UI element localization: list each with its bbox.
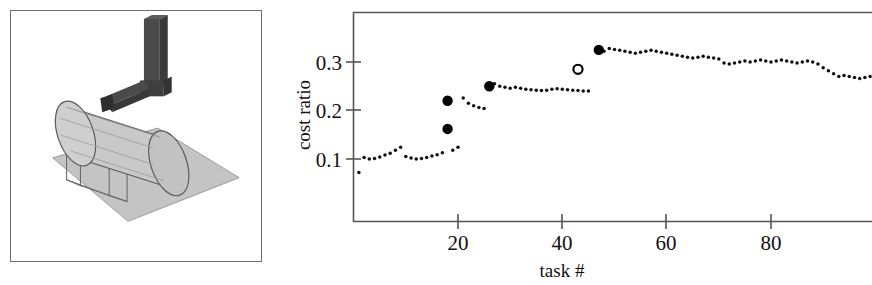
data-point: [467, 101, 471, 105]
data-point: [837, 75, 841, 79]
data-point: [529, 88, 533, 92]
data-point: [701, 54, 705, 58]
data-point: [587, 89, 591, 93]
data-point: [451, 149, 455, 153]
data-point: [748, 60, 752, 64]
data-point: [618, 49, 622, 53]
data-point: [665, 52, 669, 56]
y-tick-label-0: 0.3: [316, 51, 342, 75]
data-series-filled-markers: [442, 45, 604, 134]
data-point: [634, 52, 638, 56]
data-point: [623, 50, 627, 54]
plot-panel: 0.3 0.2 0.1 20 40 60 80 cost ratio task …: [290, 0, 872, 285]
data-point: [691, 56, 695, 60]
cost-ratio-scatter-plot: 0.3 0.2 0.1 20 40 60 80 cost ratio task …: [290, 0, 872, 285]
data-point: [561, 87, 565, 91]
data-point: [368, 157, 372, 161]
data-point: [686, 55, 690, 59]
data-point: [409, 156, 413, 160]
x-axis-title: task #: [540, 260, 585, 281]
data-point: [806, 59, 810, 63]
data-point: [571, 88, 575, 92]
data-point: [707, 55, 711, 59]
data-point: [853, 76, 857, 80]
data-point: [717, 57, 721, 61]
x-tick-label-1: 40: [552, 231, 573, 255]
y-axis-title: cost ratio: [293, 80, 314, 150]
data-point: [357, 171, 361, 175]
data-point: [399, 146, 403, 150]
highlighted-data-point: [442, 96, 452, 106]
data-point: [362, 156, 366, 160]
data-point: [394, 149, 398, 153]
data-point: [613, 48, 617, 52]
data-point: [827, 69, 831, 73]
data-point: [435, 153, 439, 157]
data-point: [769, 60, 773, 64]
data-point: [388, 151, 392, 155]
data-point: [456, 146, 460, 150]
data-point: [712, 56, 716, 60]
data-point: [441, 151, 445, 155]
data-point: [863, 76, 867, 80]
data-series-small-dots: [357, 47, 872, 175]
data-point: [649, 49, 653, 53]
data-point: [378, 155, 382, 159]
data-point: [415, 157, 419, 161]
data-point: [514, 85, 518, 89]
data-point: [503, 85, 507, 89]
x-tick-label-0: 20: [448, 231, 469, 255]
data-point: [785, 59, 789, 63]
data-point: [754, 59, 758, 63]
data-point: [540, 89, 544, 93]
open-marker-data-point: [573, 65, 582, 74]
data-point: [842, 74, 846, 78]
data-point: [654, 50, 658, 54]
y-tick-label-1: 0.2: [316, 99, 342, 123]
data-point: [404, 155, 408, 159]
data-point: [733, 61, 737, 65]
y-tick-label-2: 0.1: [316, 148, 342, 172]
data-series-open-markers: [573, 65, 582, 74]
data-point: [420, 157, 424, 161]
data-point: [508, 86, 512, 90]
data-point: [555, 87, 559, 91]
data-point: [780, 58, 784, 62]
data-point: [675, 53, 679, 57]
data-point: [644, 50, 648, 54]
data-point: [681, 54, 685, 58]
data-point: [628, 51, 632, 55]
data-point: [576, 89, 580, 93]
figure-container: 0.3 0.2 0.1 20 40 60 80 cost ratio task …: [0, 0, 872, 285]
data-point: [728, 62, 732, 66]
data-point: [373, 157, 377, 161]
data-point: [670, 52, 674, 56]
data-point: [535, 88, 539, 92]
data-point: [425, 156, 429, 160]
data-point: [774, 59, 778, 63]
data-point: [832, 72, 836, 76]
data-point: [821, 66, 825, 70]
data-point: [848, 75, 852, 79]
data-point: [498, 85, 502, 89]
highlighted-data-point: [484, 81, 494, 91]
data-point: [608, 47, 612, 51]
data-point: [816, 62, 820, 66]
data-point: [811, 60, 815, 64]
data-point: [461, 96, 465, 100]
data-point: [743, 59, 747, 63]
data-point: [722, 61, 726, 65]
data-point: [764, 59, 768, 63]
x-tick-label-2: 60: [656, 231, 677, 255]
data-point: [566, 88, 570, 92]
data-point: [472, 104, 476, 108]
data-point: [383, 153, 387, 157]
data-point: [801, 60, 805, 64]
data-point: [545, 88, 549, 92]
x-tick-label-3: 80: [761, 231, 782, 255]
data-point: [519, 86, 523, 90]
robot-arm: [100, 15, 171, 112]
data-point: [482, 107, 486, 111]
data-point: [790, 60, 794, 64]
data-point: [524, 87, 528, 91]
